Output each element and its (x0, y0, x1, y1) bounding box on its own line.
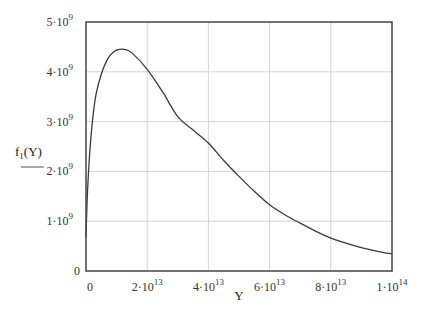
x-tick-label: 1·1014 (377, 277, 409, 294)
y-tick-label: 1·109 (47, 211, 74, 228)
svg-text:f1(Y): f1(Y) (15, 144, 42, 161)
y-axis-ticks: 01·1092·1093·1094·1095·109 (47, 12, 81, 278)
y-tick-label: 4·109 (47, 62, 74, 79)
series-f1-line (86, 49, 392, 254)
chart: 02·10134·10136·10138·10131·1014 01·1092·… (0, 0, 422, 322)
y-tick-label: 5·109 (47, 12, 74, 29)
x-axis-label: Y (234, 288, 244, 303)
x-tick-label: 0 (87, 280, 93, 294)
grid-lines (86, 22, 392, 271)
x-tick-label: 8·1013 (315, 277, 347, 294)
x-axis-ticks: 02·10134·10136·10138·10131·1014 (87, 277, 408, 294)
y-tick-label: 0 (74, 264, 80, 278)
y-axis-label: f1(Y) (15, 144, 44, 167)
y-tick-label: 3·109 (47, 112, 74, 129)
x-tick-label: 2·1013 (132, 277, 164, 294)
x-tick-label: 6·1013 (254, 277, 286, 294)
y-tick-label: 2·109 (47, 161, 74, 178)
plot-frame (86, 22, 392, 271)
x-tick-label: 4·1013 (193, 277, 225, 294)
